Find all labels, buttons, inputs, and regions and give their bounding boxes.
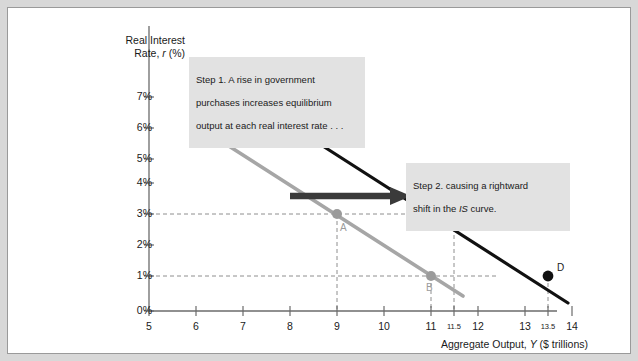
callout-step-1: Step 1. A rise in government purchases i… <box>189 57 365 148</box>
x-axis-title: Aggregate Output, Y ($ trillions) <box>420 338 588 351</box>
y-axis-title: Real Interest Rate, r (%) <box>103 34 185 60</box>
y-tick-label-6: 6% <box>118 121 152 133</box>
x-tick-label-10: 10 <box>369 320 399 332</box>
y-tick-label-5: 5% <box>118 152 152 164</box>
x-axis-title-start: Aggregate Output, <box>441 338 530 350</box>
y-tick-label-2: 2% <box>118 238 152 250</box>
x-tick-label-8: 8 <box>275 320 305 332</box>
x-tick-label-14: 14 <box>557 320 587 332</box>
callout-step-1-line2: purchases increases equilibrium <box>196 97 357 109</box>
callout-step-2: Step 2. causing a rightward shift in the… <box>406 163 570 231</box>
x-tick-label-5: 5 <box>134 320 164 332</box>
x-tick-label-9: 9 <box>322 320 352 332</box>
x-tick-label-12: 12 <box>463 320 493 332</box>
y-tick-label-0: 0% <box>118 304 152 316</box>
shift-arrow <box>290 187 411 205</box>
x-tick-label-7: 7 <box>228 320 258 332</box>
y-tick-label-4: 4% <box>118 176 152 188</box>
y-tick-label-7: 7% <box>118 90 152 102</box>
data-point-d[interactable] <box>543 271 554 282</box>
y-axis-title-unit: (%) <box>166 47 185 59</box>
y-tick-label-1: 1% <box>118 269 152 281</box>
callout-step-2-line2: shift in the IS curve. <box>413 203 562 215</box>
y-axis-title-line2: Rate, <box>134 47 162 59</box>
figure-container: Real Interest Rate, r (%) Aggregate Outp… <box>0 0 638 361</box>
y-axis-title-line1: Real Interest <box>125 34 185 46</box>
figure-panel: Real Interest Rate, r (%) Aggregate Outp… <box>7 7 631 354</box>
callout-step-2-line1: Step 2. causing a rightward <box>413 180 562 192</box>
point-label-a: A <box>340 222 347 233</box>
y-tick-label-3: 3% <box>118 207 152 219</box>
data-point-a[interactable] <box>332 209 342 219</box>
point-label-b: B <box>426 282 433 293</box>
point-label-d: D <box>557 262 564 273</box>
data-point-b[interactable] <box>426 271 436 281</box>
x-axis-title-symbol: Y <box>530 338 537 350</box>
callout-step-1-line1: Step 1. A rise in government <box>196 74 357 86</box>
callout-step-1-line3: output at each real interest rate . . . <box>196 120 357 132</box>
x-axis-title-unit: ($ trillions) <box>537 338 588 350</box>
x-tick-label-6: 6 <box>181 320 211 332</box>
